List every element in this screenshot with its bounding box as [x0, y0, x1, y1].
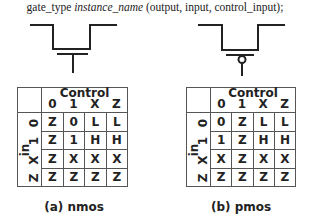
pmos-symbol-icon: [198, 25, 285, 76]
input-value: X: [197, 155, 209, 164]
pmos-caption: (b) pmos: [181, 200, 301, 214]
table-cell: X: [253, 150, 274, 169]
table-cell: H: [274, 131, 295, 150]
control-value: 0: [217, 99, 225, 110]
nmos-truth-table: Control 0 1 X Z in 0 1 X Z Z 0 L L Z 1 H…: [17, 87, 128, 187]
table-cell: H: [106, 131, 128, 150]
table-cell: 0: [211, 113, 232, 132]
nmos-symbol-icon: [30, 25, 117, 73]
table-cell: 0: [63, 113, 85, 132]
table-cell: Z: [42, 168, 64, 187]
control-value: Z: [112, 99, 121, 110]
input-value: 0: [197, 118, 209, 126]
input-value: 1: [197, 137, 209, 145]
table-cell: Z: [42, 113, 64, 132]
input-value: 0: [28, 118, 40, 126]
table-corner: [187, 88, 211, 113]
control-header: Control 0 1 X Z: [42, 88, 128, 113]
table-cell: H: [253, 131, 274, 150]
table-cell: Z: [42, 131, 64, 150]
control-value: X: [259, 99, 268, 110]
table-cell: Z: [232, 168, 253, 187]
pmos-truth-table: Control 0 1 X Z in 0 1 X Z 0 Z L L 1 Z H…: [186, 87, 296, 187]
control-value: 0: [48, 99, 56, 110]
table-cell: Z: [211, 168, 232, 187]
input-value: 1: [28, 137, 40, 145]
control-value: Z: [280, 99, 289, 110]
table-cell: L: [106, 113, 128, 132]
control-value: X: [90, 99, 99, 110]
table-cell: Z: [106, 168, 128, 187]
control-value: 1: [69, 99, 77, 110]
table-cell: X: [211, 150, 232, 169]
input-value: Z: [197, 174, 209, 183]
input-header: in 0 1 X Z: [18, 113, 42, 187]
table-cell: X: [63, 150, 85, 169]
table-cell: Z: [232, 113, 253, 132]
input-value: X: [28, 155, 40, 164]
table-cell: H: [85, 131, 107, 150]
table-cell: Z: [253, 168, 274, 187]
table-cell: X: [85, 150, 107, 169]
table-cell: 1: [211, 131, 232, 150]
nmos-caption: (a) nmos: [14, 200, 134, 214]
table-cell: X: [106, 150, 128, 169]
table-cell: X: [274, 150, 295, 169]
control-header: Control 0 1 X Z: [211, 88, 296, 113]
table-cell: 1: [63, 131, 85, 150]
input-value: Z: [28, 174, 40, 183]
table-cell: L: [253, 113, 274, 132]
table-cell: L: [85, 113, 107, 132]
table-cell: Z: [85, 168, 107, 187]
transistor-symbols: [0, 0, 310, 85]
control-value: 1: [238, 99, 246, 110]
table-corner: [18, 88, 42, 113]
input-header: in 0 1 X Z: [187, 113, 211, 187]
table-cell: Z: [42, 150, 64, 169]
table-cell: Z: [232, 131, 253, 150]
table-cell: Z: [232, 150, 253, 169]
table-cell: Z: [63, 168, 85, 187]
table-cell: Z: [274, 168, 295, 187]
table-cell: L: [274, 113, 295, 132]
